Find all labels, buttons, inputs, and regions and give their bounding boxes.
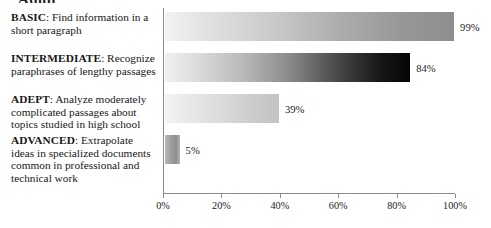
y-axis-line <box>163 8 164 194</box>
x-axis-tick <box>397 194 398 198</box>
category-label-column: BASIC: Find information in a short parag… <box>0 0 158 228</box>
x-axis-tick-label: 20% <box>212 200 231 211</box>
category-tag-adept: ADEPT <box>11 93 50 105</box>
bar-intermediate <box>165 53 410 82</box>
category-tag-advanced: ADVANCED <box>11 134 75 146</box>
x-axis-tick <box>221 194 222 198</box>
category-label-advanced: ADVANCED: Extrapolate ideas in specializ… <box>11 134 157 184</box>
x-axis-tick <box>338 194 339 198</box>
category-label-basic: BASIC: Find information in a short parag… <box>11 11 157 36</box>
x-axis-tick-label: 0% <box>156 200 170 211</box>
x-axis-tick <box>280 194 281 198</box>
x-axis-tick <box>455 194 456 198</box>
plot-area: 99% 84% 39% 5% 0%20%40%60%80%100% <box>163 8 459 194</box>
category-tag-basic: BASIC <box>11 11 46 23</box>
bar-value-basic: 99% <box>460 22 479 33</box>
bar-value-adept: 39% <box>285 104 304 115</box>
bar-value-advanced: 5% <box>186 145 200 156</box>
x-axis-tick-label: 40% <box>270 200 289 211</box>
x-axis-tick-label: 80% <box>387 200 406 211</box>
bar-adept <box>165 94 279 123</box>
category-label-intermediate: INTERMEDIATE: Recognize paraphrases of l… <box>11 52 157 77</box>
x-axis-tick-label: 60% <box>329 200 348 211</box>
chart-figure: Adult BASIC: Find information in a short… <box>0 0 491 228</box>
x-axis-tick <box>163 194 164 198</box>
category-label-adept: ADEPT: Analyze moderately complicated pa… <box>11 93 157 131</box>
bar-basic <box>165 12 454 41</box>
x-axis-line <box>163 193 455 194</box>
x-axis-tick-label: 100% <box>443 200 467 211</box>
category-tag-intermediate: INTERMEDIATE <box>11 52 101 64</box>
bar-value-intermediate: 84% <box>416 63 435 74</box>
bar-advanced <box>165 135 180 164</box>
